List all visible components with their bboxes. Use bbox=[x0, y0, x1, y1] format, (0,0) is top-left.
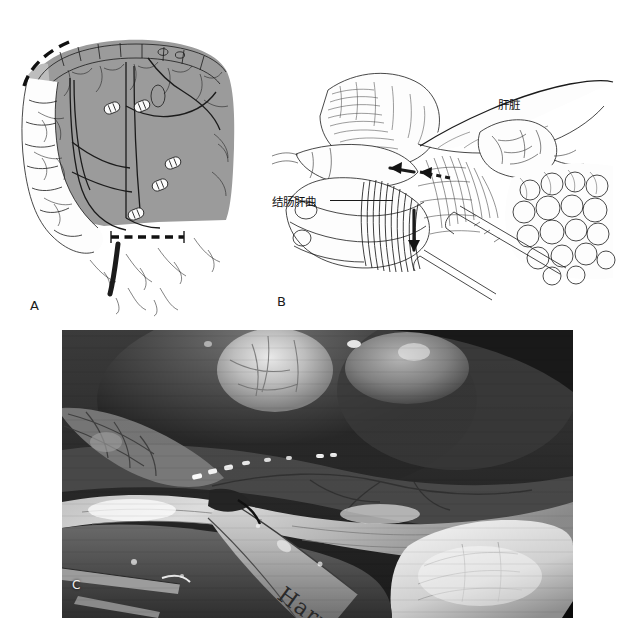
hepatic-flexure-leader-line bbox=[330, 200, 393, 201]
liver-segment-bright bbox=[345, 332, 469, 404]
transection-end-ticks bbox=[111, 231, 184, 243]
omental-fat bbox=[505, 163, 615, 285]
fascial-striations bbox=[418, 156, 498, 234]
liver-label: 肝脏 bbox=[498, 96, 520, 112]
divided-vessel-stump bbox=[110, 244, 118, 294]
panel-letter-c: C bbox=[72, 578, 81, 592]
corner-marker bbox=[562, 601, 573, 618]
gallbladder-fundus bbox=[217, 330, 333, 412]
panel-b-illustration bbox=[268, 60, 613, 310]
hepatic-flexure-label: 结肠肝曲 bbox=[272, 193, 316, 209]
laparoscopic-photo: Harm bbox=[62, 330, 573, 618]
hepatic-flexure-colon bbox=[286, 178, 429, 268]
panel-letter-b: B bbox=[277, 294, 286, 309]
figure-container: A bbox=[0, 0, 618, 622]
panel-letter-a: A bbox=[30, 298, 39, 313]
panel-c-photograph: Harm bbox=[62, 330, 573, 618]
panel-a-illustration bbox=[8, 22, 258, 312]
